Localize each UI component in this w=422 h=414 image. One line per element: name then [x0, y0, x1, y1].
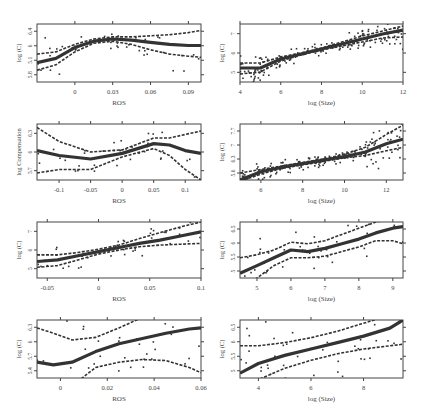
scatter-panel-row4-right: 46855.566.5log (Size)log (C)	[216, 316, 413, 406]
data-point	[244, 71, 246, 73]
data-point	[50, 69, 52, 71]
data-point	[240, 55, 242, 57]
data-point	[391, 120, 393, 121]
data-point	[300, 166, 302, 168]
x-axis-label: ROS	[112, 197, 126, 205]
data-point	[99, 355, 101, 357]
data-point	[388, 157, 390, 159]
y-tick-label: 6.3	[27, 130, 33, 137]
data-point	[132, 250, 134, 252]
y-tick-label: 7	[230, 143, 236, 146]
data-point	[254, 77, 256, 79]
data-point	[139, 343, 141, 345]
scatter-panel-row2-right: 6810125.66.377.7log (Size)log (C)	[216, 120, 413, 208]
data-point	[325, 52, 327, 54]
data-point	[43, 360, 45, 362]
data-point	[240, 384, 242, 386]
data-point	[37, 153, 39, 155]
data-point	[83, 326, 85, 328]
data-point	[363, 33, 365, 35]
data-point	[118, 370, 120, 372]
x-tick-label: 6	[289, 284, 293, 291]
data-point	[280, 162, 282, 164]
y-axis-label: log (C)	[218, 241, 226, 260]
x-tick-label: 10	[359, 88, 366, 95]
data-point	[39, 162, 41, 164]
data-point	[353, 157, 355, 159]
data-point	[75, 170, 77, 172]
x-tick-label: 8	[362, 384, 365, 391]
x-tick-label: 0.06	[145, 88, 157, 95]
data-point	[123, 240, 125, 242]
data-point	[134, 249, 136, 251]
data-point	[391, 151, 393, 153]
data-point	[366, 141, 368, 143]
data-point	[55, 248, 57, 250]
data-point	[253, 79, 255, 81]
data-point	[375, 161, 377, 163]
data-point	[297, 356, 299, 358]
data-point	[382, 157, 384, 159]
data-point	[376, 30, 378, 32]
x-tick-label: 8	[320, 88, 323, 95]
data-point	[397, 149, 399, 151]
data-point	[318, 163, 320, 165]
x-tick-label: 0.05	[148, 186, 159, 193]
y-tick-label: 6.3	[230, 155, 236, 162]
data-point	[94, 170, 96, 172]
data-point	[83, 328, 85, 330]
data-point	[401, 20, 403, 22]
x-tick-label: 0	[121, 186, 124, 193]
data-point	[242, 170, 244, 172]
data-point	[240, 64, 242, 66]
data-point	[146, 353, 148, 355]
x-tick-label: 12	[383, 186, 390, 193]
data-point	[307, 48, 309, 50]
data-point	[393, 343, 395, 345]
data-point	[380, 40, 382, 42]
data-point	[240, 359, 242, 361]
data-point	[278, 55, 280, 57]
data-point	[56, 247, 58, 249]
data-point	[152, 133, 154, 135]
data-point	[290, 48, 292, 50]
data-point	[240, 183, 242, 185]
data-point	[261, 382, 263, 384]
data-point	[57, 380, 59, 382]
y-tick-label: 5.5	[230, 353, 236, 360]
data-point	[254, 76, 256, 78]
data-point	[374, 324, 376, 326]
data-point	[360, 339, 362, 341]
data-point	[373, 144, 375, 146]
y-tick-label: 5	[230, 369, 236, 372]
data-point	[251, 183, 253, 185]
data-point	[269, 176, 271, 178]
data-point	[382, 42, 384, 44]
data-point	[354, 345, 356, 347]
x-axis-label: log (Size)	[308, 197, 336, 205]
data-point	[116, 45, 118, 47]
upper-confidence-band	[37, 30, 201, 54]
data-point	[120, 140, 122, 142]
x-tick-label: 6	[279, 88, 283, 95]
data-point	[161, 132, 163, 134]
data-point	[69, 317, 71, 319]
data-point	[369, 357, 371, 359]
y-tick-label: 5	[230, 71, 236, 74]
data-point	[368, 31, 370, 33]
data-point	[260, 248, 262, 250]
data-point	[259, 252, 261, 254]
data-point	[244, 291, 246, 293]
y-tick-label: 6	[27, 150, 33, 153]
data-point	[347, 46, 349, 48]
data-point	[98, 340, 100, 342]
upper-confidence-band	[240, 125, 403, 173]
x-tick-label: 0.03	[107, 88, 118, 95]
y-tick-label: 7	[27, 230, 33, 233]
data-point	[302, 169, 304, 171]
data-point	[304, 48, 306, 50]
upper-confidence-band	[240, 218, 403, 258]
x-axis-label: log (Size)	[308, 295, 336, 303]
x-tick-label: 0.02	[102, 384, 113, 391]
data-point	[198, 345, 200, 347]
